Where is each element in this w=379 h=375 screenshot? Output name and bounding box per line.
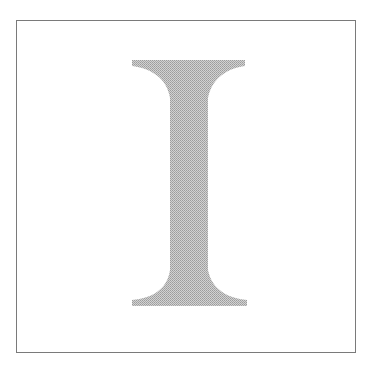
- letter-i-glyph: [0, 0, 379, 375]
